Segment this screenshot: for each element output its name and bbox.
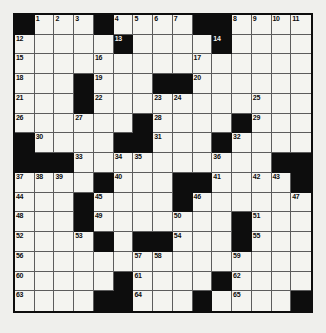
- letter-cell[interactable]: 17: [193, 54, 213, 74]
- letter-cell[interactable]: [193, 252, 213, 272]
- letter-cell[interactable]: [133, 94, 153, 114]
- letter-cell[interactable]: 60: [15, 272, 35, 292]
- letter-cell[interactable]: [173, 272, 193, 292]
- letter-cell[interactable]: [153, 212, 173, 232]
- letter-cell[interactable]: [173, 35, 193, 55]
- letter-cell[interactable]: 25: [252, 94, 272, 114]
- letter-cell[interactable]: 20: [193, 74, 213, 94]
- letter-cell[interactable]: 37: [15, 173, 35, 193]
- letter-cell[interactable]: [153, 193, 173, 213]
- letter-cell[interactable]: [291, 272, 311, 292]
- letter-cell[interactable]: [54, 94, 74, 114]
- letter-cell[interactable]: [35, 291, 55, 311]
- letter-cell[interactable]: [252, 272, 272, 292]
- letter-cell[interactable]: [272, 94, 292, 114]
- letter-cell[interactable]: [54, 54, 74, 74]
- letter-cell[interactable]: [193, 133, 213, 153]
- letter-cell[interactable]: [133, 54, 153, 74]
- letter-cell[interactable]: 53: [74, 232, 94, 252]
- letter-cell[interactable]: 41: [212, 173, 232, 193]
- letter-cell[interactable]: 6: [153, 15, 173, 35]
- letter-cell[interactable]: [252, 54, 272, 74]
- letter-cell[interactable]: [212, 232, 232, 252]
- letter-cell[interactable]: [252, 153, 272, 173]
- letter-cell[interactable]: [54, 272, 74, 292]
- letter-cell[interactable]: [291, 54, 311, 74]
- letter-cell[interactable]: 2: [54, 15, 74, 35]
- letter-cell[interactable]: [35, 54, 55, 74]
- letter-cell[interactable]: [114, 193, 134, 213]
- letter-cell[interactable]: [35, 94, 55, 114]
- letter-cell[interactable]: [232, 193, 252, 213]
- letter-cell[interactable]: [272, 272, 292, 292]
- letter-cell[interactable]: [74, 173, 94, 193]
- letter-cell[interactable]: 61: [133, 272, 153, 292]
- letter-cell[interactable]: [114, 212, 134, 232]
- letter-cell[interactable]: [252, 291, 272, 311]
- letter-cell[interactable]: 21: [15, 94, 35, 114]
- letter-cell[interactable]: [35, 212, 55, 232]
- letter-cell[interactable]: [291, 252, 311, 272]
- letter-cell[interactable]: [94, 272, 114, 292]
- letter-cell[interactable]: [212, 114, 232, 134]
- letter-cell[interactable]: [173, 114, 193, 134]
- letter-cell[interactable]: 16: [94, 54, 114, 74]
- letter-cell[interactable]: 30: [35, 133, 55, 153]
- letter-cell[interactable]: [291, 212, 311, 232]
- letter-cell[interactable]: 32: [232, 133, 252, 153]
- letter-cell[interactable]: [94, 114, 114, 134]
- letter-cell[interactable]: 8: [232, 15, 252, 35]
- letter-cell[interactable]: [173, 153, 193, 173]
- letter-cell[interactable]: 27: [74, 114, 94, 134]
- letter-cell[interactable]: [193, 153, 213, 173]
- letter-cell[interactable]: [272, 291, 292, 311]
- letter-cell[interactable]: [232, 153, 252, 173]
- letter-cell[interactable]: [133, 173, 153, 193]
- letter-cell[interactable]: [94, 133, 114, 153]
- letter-cell[interactable]: [54, 252, 74, 272]
- letter-cell[interactable]: [54, 212, 74, 232]
- letter-cell[interactable]: [212, 291, 232, 311]
- letter-cell[interactable]: 7: [173, 15, 193, 35]
- letter-cell[interactable]: [114, 252, 134, 272]
- letter-cell[interactable]: 58: [153, 252, 173, 272]
- letter-cell[interactable]: 10: [272, 15, 292, 35]
- letter-cell[interactable]: [74, 133, 94, 153]
- letter-cell[interactable]: 24: [173, 94, 193, 114]
- letter-cell[interactable]: [74, 272, 94, 292]
- letter-cell[interactable]: [74, 291, 94, 311]
- letter-cell[interactable]: [133, 35, 153, 55]
- letter-cell[interactable]: [291, 114, 311, 134]
- letter-cell[interactable]: [54, 114, 74, 134]
- letter-cell[interactable]: [133, 74, 153, 94]
- letter-cell[interactable]: [74, 35, 94, 55]
- letter-cell[interactable]: [173, 252, 193, 272]
- letter-cell[interactable]: 44: [15, 193, 35, 213]
- letter-cell[interactable]: 54: [173, 232, 193, 252]
- letter-cell[interactable]: 1: [35, 15, 55, 35]
- letter-cell[interactable]: [252, 35, 272, 55]
- letter-cell[interactable]: 31: [153, 133, 173, 153]
- letter-cell[interactable]: 59: [232, 252, 252, 272]
- letter-cell[interactable]: [35, 252, 55, 272]
- letter-cell[interactable]: [133, 212, 153, 232]
- letter-cell[interactable]: 55: [252, 232, 272, 252]
- letter-cell[interactable]: 22: [94, 94, 114, 114]
- letter-cell[interactable]: [114, 232, 134, 252]
- letter-cell[interactable]: [252, 252, 272, 272]
- letter-cell[interactable]: 15: [15, 54, 35, 74]
- letter-cell[interactable]: [291, 74, 311, 94]
- letter-cell[interactable]: [291, 133, 311, 153]
- letter-cell[interactable]: [272, 212, 292, 232]
- letter-cell[interactable]: [272, 74, 292, 94]
- letter-cell[interactable]: 18: [15, 74, 35, 94]
- letter-cell[interactable]: [272, 232, 292, 252]
- letter-cell[interactable]: [153, 291, 173, 311]
- letter-cell[interactable]: [212, 193, 232, 213]
- letter-cell[interactable]: [35, 232, 55, 252]
- letter-cell[interactable]: 43: [272, 173, 292, 193]
- letter-cell[interactable]: [193, 94, 213, 114]
- letter-cell[interactable]: 40: [114, 173, 134, 193]
- letter-cell[interactable]: [272, 35, 292, 55]
- letter-cell[interactable]: [114, 54, 134, 74]
